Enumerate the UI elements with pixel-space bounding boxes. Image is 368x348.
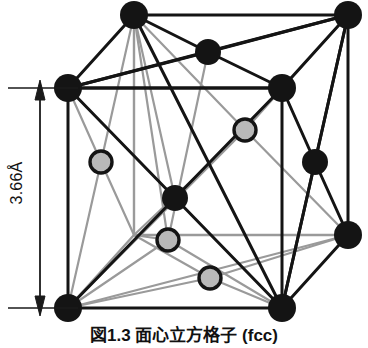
dimension-label: 3.66Å (8, 140, 26, 226)
face-center-front-atom (162, 185, 188, 211)
diag-hidden-long-b (134, 15, 175, 198)
dimension-arrowhead-top (35, 80, 45, 100)
face-center-bottom-atom (199, 267, 221, 289)
corner-back-top-right-atom (334, 1, 362, 29)
diag-back-d (245, 130, 348, 235)
diag-front-b (175, 88, 282, 198)
corner-front-bottom-right-atom (268, 294, 296, 322)
corner-front-top-right-atom (268, 74, 296, 102)
dimension-arrowhead-bottom (35, 296, 45, 316)
face-center-back-atom (234, 119, 256, 141)
fcc-lattice-figure: 3.66Å 図1.3 面心立方格子 (fcc) (0, 0, 368, 348)
corner-back-bottom-right-atom (334, 221, 362, 249)
face-center-bottom-left-atom (157, 229, 179, 251)
face-center-right-atom (302, 149, 328, 175)
depth-edge-top-right (282, 15, 348, 88)
fcc-lattice-diagram (0, 0, 368, 348)
diag-front-a (68, 88, 175, 198)
diag-back-a (134, 15, 245, 130)
corner-back-top-left-atom (120, 1, 148, 29)
diag-left-c (68, 162, 101, 308)
face-center-left-atom (90, 151, 112, 173)
diag-front-c (68, 198, 175, 308)
face-center-top-atom (195, 39, 221, 65)
depth-edge-top-left (68, 15, 134, 88)
figure-caption: 図1.3 面心立方格子 (fcc) (0, 326, 368, 346)
